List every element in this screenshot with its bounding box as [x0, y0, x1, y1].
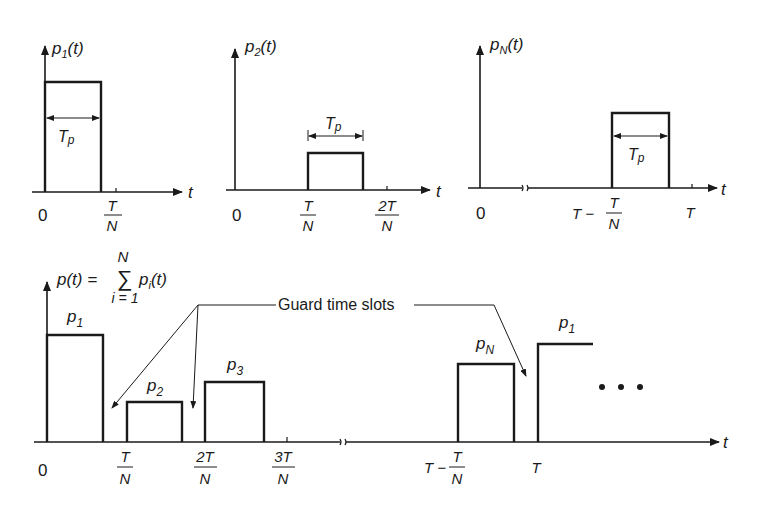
svg-text:Tp: Tp — [628, 146, 645, 165]
svg-text:p1(t): p1(t) — [51, 39, 84, 60]
svg-text:T: T — [452, 448, 463, 465]
x-axis-label: t — [721, 180, 727, 199]
ellipsis-dot — [637, 384, 643, 390]
y-axis-label: p — [244, 37, 254, 56]
pulse-label: p — [558, 313, 568, 332]
svg-text:N: N — [120, 470, 131, 487]
origin-label: 0 — [476, 204, 485, 223]
svg-text:T −: T − — [572, 205, 594, 222]
x-axis-label: t — [188, 183, 194, 202]
svg-text:p1: p1 — [66, 307, 83, 330]
svg-text:pN: pN — [475, 334, 494, 357]
svg-text:pN(t): pN(t) — [489, 35, 523, 56]
pulse-p2 — [308, 153, 363, 190]
svg-text:N: N — [303, 217, 314, 234]
svg-text:p3: p3 — [226, 355, 243, 378]
x-axis-label: t — [723, 433, 729, 452]
svg-text:2T: 2T — [195, 448, 215, 465]
svg-text:T: T — [303, 197, 314, 214]
tick-den: N — [107, 217, 118, 234]
svg-text:T: T — [531, 459, 542, 476]
origin-label: 0 — [38, 461, 47, 480]
svg-text:T: T — [120, 448, 131, 465]
sum-upper: N — [118, 248, 129, 265]
panel-p2: p2(t) Tp t 0 T N 2T N — [226, 37, 442, 234]
guard-time-annotation: Guard time slots — [278, 296, 394, 313]
pulse-label: p — [66, 307, 76, 326]
origin-label: 0 — [38, 206, 47, 225]
ellipsis-dot — [599, 384, 605, 390]
svg-text:Tp: Tp — [58, 128, 75, 147]
guard-leader-right — [414, 305, 526, 376]
pulse-label: p — [475, 334, 485, 353]
svg-text:N: N — [382, 217, 393, 234]
svg-text:p2: p2 — [146, 376, 163, 399]
panel-combined: p(t) = ∑ N i = 1 pi(t) p1 p2 p3 pN p1 Gu… — [34, 248, 729, 487]
axis-break-icon — [522, 185, 528, 191]
pulse-p1 — [47, 335, 103, 442]
svg-text:T: T — [609, 194, 620, 211]
svg-text:p2(t): p2(t) — [244, 37, 277, 58]
formula-lhs: p(t) = — [56, 270, 97, 289]
guard-leader-mid — [193, 305, 198, 408]
svg-text:Tp: Tp — [325, 115, 342, 134]
svg-text:p1: p1 — [558, 313, 575, 336]
svg-text:N: N — [452, 470, 463, 487]
pulse-pN — [458, 364, 514, 442]
svg-text:N: N — [278, 470, 289, 487]
pulse-p1-next — [538, 344, 593, 442]
panel-pN: pN(t) Tp t 0 T − T N T — [468, 35, 727, 232]
axis-break-icon — [340, 439, 346, 445]
sum-lower: i = 1 — [112, 290, 139, 306]
formula-rhs: p — [138, 270, 148, 289]
ellipsis-dot — [618, 384, 624, 390]
tdm-pulse-diagram: p1(t) Tp t 0 T N p2(t) Tp t 0 T N 2T N — [0, 0, 759, 515]
svg-text:2T: 2T — [377, 197, 397, 214]
svg-text:pi(t): pi(t) — [138, 270, 167, 291]
sum-symbol: ∑ — [117, 266, 133, 291]
tick-num: T — [107, 197, 118, 214]
svg-text:N: N — [200, 470, 211, 487]
pulse-label: p — [146, 376, 156, 395]
y-axis-label: p — [489, 35, 499, 54]
origin-label: 0 — [232, 206, 241, 225]
pulse-p3 — [205, 382, 264, 442]
panel-p1: p1(t) Tp t 0 T N — [32, 39, 194, 234]
x-axis-label: t — [436, 182, 442, 201]
svg-text:T: T — [685, 204, 696, 221]
pulse-label: p — [226, 355, 236, 374]
svg-text:3T: 3T — [274, 448, 293, 465]
y-axis-label: p — [51, 39, 61, 58]
svg-text:T −: T − — [424, 459, 446, 476]
pulse-p2 — [127, 402, 182, 442]
svg-text:N: N — [609, 215, 620, 232]
